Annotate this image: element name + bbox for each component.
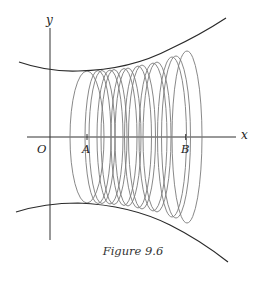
x-axis-label: x: [241, 128, 248, 142]
point-b-label: B: [180, 142, 189, 156]
origin-label: O: [37, 142, 47, 156]
y-axis-label: y: [45, 13, 53, 27]
bounding-curves: [16, 18, 228, 262]
figure-caption: Figure 9.6: [0, 244, 266, 258]
axes: [27, 28, 236, 240]
point-a-label: A: [81, 142, 90, 156]
solid-of-revolution-diagram: y x O A B: [0, 0, 266, 281]
